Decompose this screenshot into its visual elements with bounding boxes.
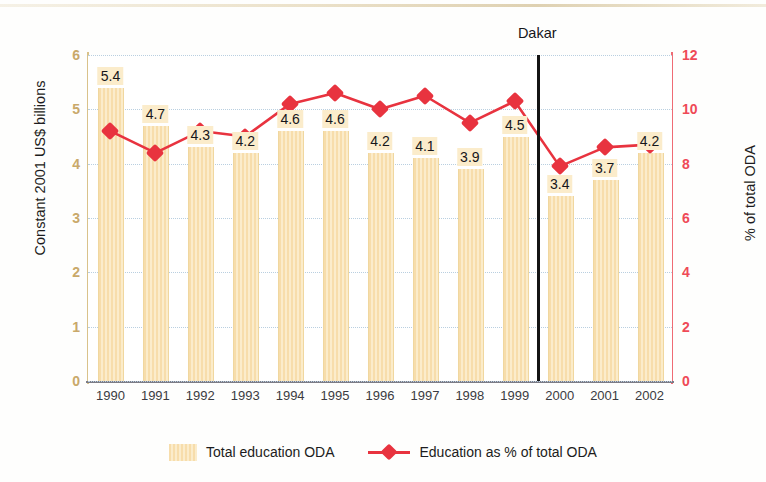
bar-swatch-icon [169, 444, 197, 461]
right-tick-label: 10 [682, 101, 710, 117]
left-tick-label: 4 [54, 156, 80, 172]
plot-area: 5.44.74.34.24.64.64.24.13.94.53.43.74.2 … [88, 55, 672, 381]
dakar-marker-line [537, 55, 540, 381]
legend-item-bar: Total education ODA [169, 444, 334, 461]
top-rule-divider [0, 4, 766, 7]
right-tick-label: 4 [682, 264, 710, 280]
bar-value-label: 4.6 [322, 110, 347, 128]
chart-legend: Total education ODA Education as % of to… [0, 438, 766, 466]
right-tick-label: 0 [682, 373, 710, 389]
right-tick-label: 12 [682, 47, 710, 63]
bar-value-label: 3.4 [547, 175, 572, 193]
bar-value-label: 4.2 [637, 132, 662, 150]
left-tick-label: 0 [54, 373, 80, 389]
bar-value-label: 4.2 [367, 132, 392, 150]
left-tick-label: 3 [54, 210, 80, 226]
right-tick-label: 2 [682, 319, 710, 335]
legend-item-line: Education as % of total ODA [368, 444, 596, 460]
bar-value-label: 5.4 [98, 67, 123, 85]
legend-label-bar: Total education ODA [206, 444, 334, 460]
bar-value-label: 4.7 [143, 105, 168, 123]
bar-value-label: 3.7 [592, 159, 617, 177]
bar-value-label: 4.6 [277, 110, 302, 128]
bar-value-label: 4.2 [232, 132, 257, 150]
x-tick-label: 2002 [622, 388, 678, 403]
dakar-marker-label: Dakar [518, 25, 557, 41]
left-tick-label: 5 [54, 101, 80, 117]
left-tick-label: 1 [54, 319, 80, 335]
left-tick-label: 6 [54, 47, 80, 63]
bar-value-label: 3.9 [457, 148, 482, 166]
line-diamond-swatch-icon [368, 445, 410, 459]
right-axis-title: % of total ODA [742, 83, 758, 303]
right-tick-label: 8 [682, 156, 710, 172]
left-tick-label: 2 [54, 264, 80, 280]
bar-value-label: 4.1 [412, 137, 437, 155]
bar-value-label: 4.3 [188, 126, 213, 144]
bar-value-label: 4.5 [502, 116, 527, 134]
chart-figure: Constant 2001 US$ billions % of total OD… [0, 0, 766, 482]
gridline [88, 381, 672, 383]
legend-label-line: Education as % of total ODA [419, 444, 596, 460]
right-tick-label: 6 [682, 210, 710, 226]
left-axis-title: Constant 2001 US$ billions [32, 28, 48, 308]
